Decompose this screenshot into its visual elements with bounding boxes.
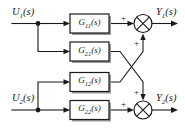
wire-u2-to-g22 bbox=[38, 107, 70, 112]
output-label-y2: Y2(s) bbox=[156, 93, 176, 106]
block-g12[interactable]: G12(s) bbox=[70, 73, 109, 92]
sign-sum1-bottom: + bbox=[134, 39, 139, 48]
block-g11[interactable]: G11(s) bbox=[70, 14, 109, 33]
input-label-u2: U2(s) bbox=[12, 93, 34, 106]
block-label-g21: G21(s) bbox=[70, 46, 109, 57]
summing-junction-sum1 bbox=[134, 15, 152, 33]
output-label-y1: Y1(s) bbox=[156, 7, 176, 20]
sign-sum1-left: + bbox=[121, 14, 126, 23]
sign-sum2-left: + bbox=[121, 100, 126, 109]
arrow-head-icon bbox=[171, 107, 178, 113]
arrow-head-icon bbox=[171, 21, 178, 27]
arrow-head-icon bbox=[128, 21, 135, 26]
wire-g21-to-sum2-cross bbox=[109, 52, 146, 101]
block-diagram-figure: G11(s) G21(s) G12(s) G22(s) U1(s) U2(s) … bbox=[0, 0, 185, 133]
wire-sum2-to-y2 bbox=[152, 107, 178, 113]
wire-g12-to-sum1-cross bbox=[109, 34, 146, 83]
wire-u1-to-g21 bbox=[38, 24, 70, 55]
block-g21[interactable]: G21(s) bbox=[70, 42, 109, 61]
block-g22[interactable]: G22(s) bbox=[70, 101, 109, 120]
arrow-head-icon bbox=[128, 107, 135, 112]
block-label-g22: G22(s) bbox=[70, 104, 109, 115]
wire-sum1-to-y1 bbox=[152, 21, 178, 27]
block-label-g12: G12(s) bbox=[70, 76, 109, 87]
input-label-u1: U1(s) bbox=[12, 7, 34, 20]
sign-sum2-top: + bbox=[134, 88, 139, 97]
block-label-g11: G11(s) bbox=[70, 18, 109, 29]
wire-u2-to-g12 bbox=[38, 79, 70, 110]
arrow-head-icon bbox=[140, 94, 145, 101]
summing-junction-sum2 bbox=[134, 101, 152, 119]
arrow-head-icon bbox=[140, 34, 145, 41]
wire-u1-to-g11 bbox=[38, 21, 70, 26]
